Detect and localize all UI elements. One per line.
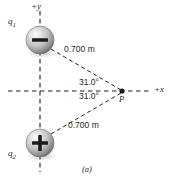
- charge-diagram: [0, 0, 176, 179]
- x-axis-label: +x: [154, 85, 164, 94]
- y-axis-label: +y: [31, 2, 41, 11]
- distance-label-upper: 0.700 m: [64, 45, 95, 54]
- charge-label-q2: q2: [8, 149, 16, 161]
- charge-label-q1-subscript: 1: [13, 21, 17, 29]
- figure-caption: (a): [82, 165, 92, 174]
- angle-label-upper: 31.0°: [79, 78, 99, 87]
- point-label-P: P: [119, 95, 124, 104]
- point-P-marker: [119, 88, 124, 93]
- distance-label-lower: 0.700 m: [68, 121, 99, 130]
- angle-label-lower: 31.0°: [79, 92, 99, 101]
- charge-label-q1: q1: [8, 17, 16, 29]
- minus-sign-icon: [32, 38, 48, 42]
- charge-label-q2-subscript: 2: [13, 153, 17, 161]
